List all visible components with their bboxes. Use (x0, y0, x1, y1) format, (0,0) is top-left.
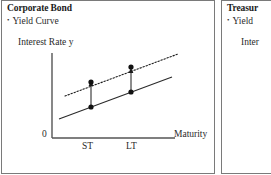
x-axis-title: Maturity (174, 129, 207, 140)
bullet-item-yield: •Yield (227, 15, 253, 27)
y-axis-title-treasury: Inter (241, 37, 259, 48)
corporate-yield-curve-line (65, 54, 178, 96)
treasury-panel: Treasur •Yield Inter (221, 0, 271, 174)
y-axis-title: Interest Rate y (18, 37, 73, 48)
data-point-corporate-st (88, 79, 93, 84)
data-point-treasury-st (88, 104, 93, 109)
corporate-bond-panel: Corporate Bond •Yield Curve Interest Rat… (1, 0, 215, 174)
data-point-treasury-lt (128, 89, 133, 94)
slide-screenshot: Corporate Bond •Yield Curve Interest Rat… (0, 0, 271, 175)
bullet-item-label: Yield (232, 16, 253, 26)
chart-plot-svg (2, 1, 215, 174)
treasury-yield-curve-line (59, 77, 172, 119)
yield-curve-chart: Interest Rate y 0 Maturity ST LT (2, 1, 214, 173)
x-tick-label-lt: LT (126, 141, 137, 152)
panel-title-treasury: Treasur (227, 3, 258, 14)
origin-label: 0 (42, 129, 47, 140)
bullet-point-icon: • (227, 15, 229, 26)
x-tick-label-st: ST (82, 141, 93, 152)
data-point-corporate-lt (128, 64, 133, 69)
